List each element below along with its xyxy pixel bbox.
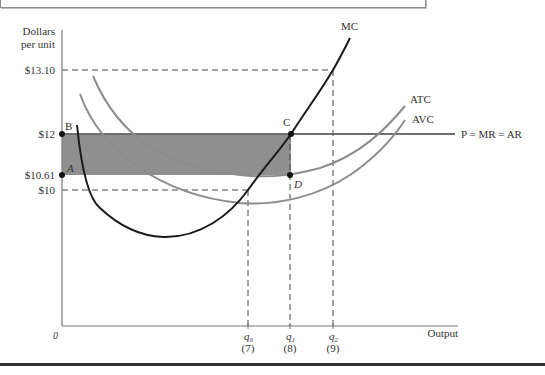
avc-label: AVC xyxy=(412,113,434,125)
point-d xyxy=(287,172,293,178)
origin-label: 0 xyxy=(53,330,58,341)
y-tick-10: $10 xyxy=(39,184,56,196)
point-d-label: D xyxy=(293,178,302,190)
q2-value: (9) xyxy=(327,342,340,355)
y-tick-12: $12 xyxy=(39,128,56,140)
price-line-label: P = MR = AR xyxy=(461,128,523,140)
point-a-label: A xyxy=(66,162,74,174)
point-c-label: C xyxy=(283,116,290,128)
point-b-label: B xyxy=(65,120,72,132)
y-axis-label-line2: per unit xyxy=(21,38,55,50)
atc-label: ATC xyxy=(410,93,431,105)
q1-value: (8) xyxy=(284,342,297,355)
q0-value: (7) xyxy=(242,342,255,355)
mc-label: MC xyxy=(341,20,358,32)
point-a xyxy=(59,172,65,178)
y-tick-13-10: $13.10 xyxy=(25,64,56,76)
point-c xyxy=(288,131,294,137)
bottom-rule xyxy=(0,363,545,366)
x-axis-label: Output xyxy=(427,327,458,339)
y-tick-10-61: $10.61 xyxy=(25,169,55,181)
cost-curves-chart: Dollars per unit $13.10 $12 $10.61 $10 0… xyxy=(0,0,545,375)
profit-rectangle xyxy=(62,134,291,175)
y-axis-label-line1: Dollars xyxy=(23,25,55,37)
